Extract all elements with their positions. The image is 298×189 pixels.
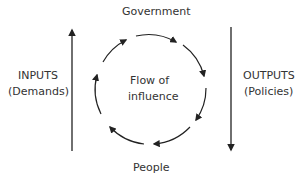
inputs-label: INPUTS bbox=[18, 68, 58, 83]
policies-label: (Policies) bbox=[244, 84, 293, 99]
center-label-1: Flow of bbox=[130, 73, 169, 88]
people-label: People bbox=[133, 160, 170, 175]
center-label-2: influence bbox=[128, 89, 178, 104]
demands-label: (Demands) bbox=[8, 84, 69, 99]
government-label: Government bbox=[122, 4, 191, 19]
outputs-label: OUTPUTS bbox=[243, 68, 295, 83]
